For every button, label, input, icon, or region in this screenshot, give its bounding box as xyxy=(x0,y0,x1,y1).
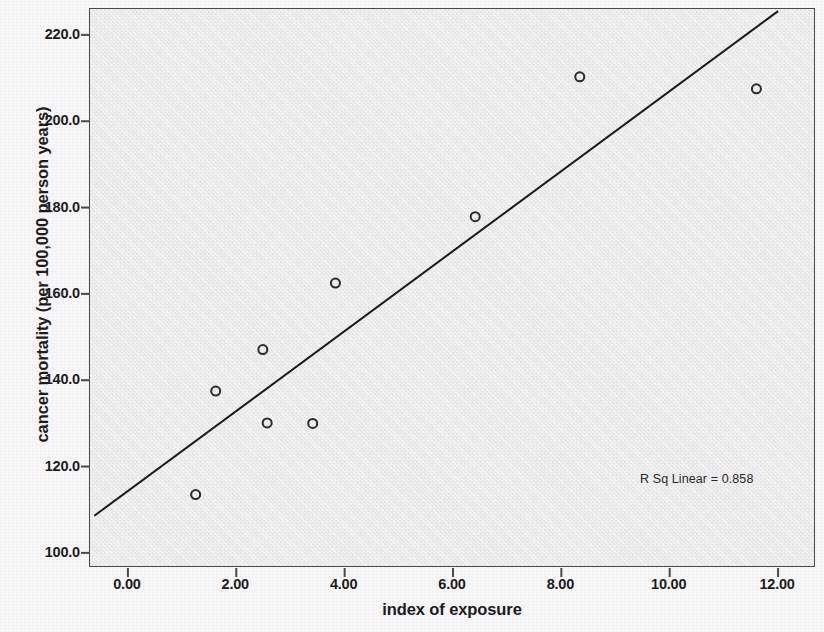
x-axis-tick-label: 10.00 xyxy=(629,576,709,592)
data-point-marker xyxy=(258,345,267,354)
data-point-marker xyxy=(211,387,220,396)
fit-line-group xyxy=(94,11,778,516)
scatter-plot-figure: 100.0120.0140.0160.0180.0200.0220.0 canc… xyxy=(0,0,824,632)
x-axis-tick-label: 2.00 xyxy=(195,576,275,592)
x-axis-tick-label: 0.00 xyxy=(87,576,167,592)
r-squared-annotation: R Sq Linear = 0.858 xyxy=(640,472,753,486)
data-point-marker xyxy=(752,84,761,93)
y-axis-title: cancer mortality (per 100,000 person yea… xyxy=(33,0,52,555)
linear-fit-line xyxy=(94,11,778,516)
data-point-marker xyxy=(263,418,272,427)
x-axis-tick-label: 4.00 xyxy=(304,576,384,592)
data-point-marker xyxy=(471,212,480,221)
data-point-marker xyxy=(575,72,584,81)
data-point-marker xyxy=(191,490,200,499)
x-axis-title: index of exposure xyxy=(89,600,815,619)
x-axis-tick-label: 6.00 xyxy=(412,576,492,592)
x-axis-tick-label: 8.00 xyxy=(520,576,600,592)
data-point-marker xyxy=(308,419,317,428)
x-axis-tick-label: 12.00 xyxy=(737,576,817,592)
data-point-marker xyxy=(331,279,340,288)
